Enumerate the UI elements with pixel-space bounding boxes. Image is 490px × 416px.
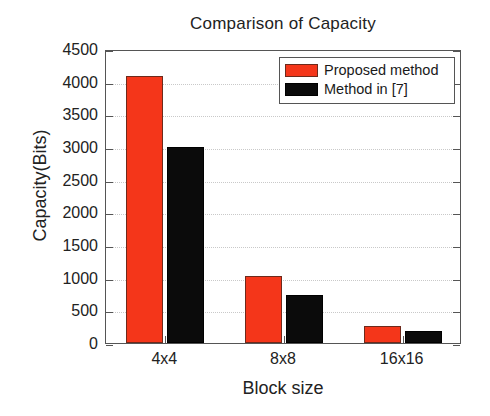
x-axis-tick-labels: 4x48x816x16 [105, 350, 461, 374]
legend-label: Proposed method [324, 63, 438, 78]
bar-4x4-reference [167, 147, 204, 343]
y-tick-label: 4500 [36, 41, 98, 59]
legend-entry[interactable]: Method in [7] [285, 80, 450, 99]
legend-label: Method in [7] [324, 82, 408, 97]
bar-16x16-reference [405, 331, 442, 343]
y-tick-mark [453, 345, 460, 346]
x-tick-mark [165, 336, 166, 343]
legend-swatch-reference [285, 83, 318, 96]
bar-8x8-reference [286, 295, 323, 343]
y-axis-label: Capacity(Bits) [30, 66, 51, 306]
legend-entry[interactable]: Proposed method [285, 61, 450, 80]
chart-title: Comparison of Capacity [105, 14, 461, 34]
x-axis-label: Block size [105, 378, 461, 399]
bar-8x8-proposed [245, 276, 282, 343]
bar-4x4-proposed [126, 76, 163, 343]
legend-swatch-proposed [285, 64, 318, 77]
x-tick-mark [403, 336, 404, 343]
bar-16x16-proposed [364, 326, 401, 343]
y-tick-label: 0 [36, 335, 98, 353]
x-tick-mark [284, 336, 285, 343]
x-tick-label: 4x4 [151, 350, 177, 368]
x-tick-label: 8x8 [270, 350, 296, 368]
x-tick-label: 16x16 [380, 350, 424, 368]
chart-legend: Proposed methodMethod in [7] [279, 57, 455, 104]
chart-figure: Comparison of Capacity 05001000150020002… [0, 0, 490, 416]
y-tick-mark [106, 345, 113, 346]
